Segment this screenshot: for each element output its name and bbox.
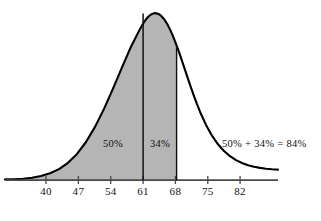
region-label-34-percent: 34% <box>150 138 170 149</box>
sum-annotation-label: 50% + 34% = 84% <box>222 138 307 149</box>
x-axis-label-61: 61 <box>137 186 149 197</box>
shaded-area-under-curve <box>5 13 177 180</box>
x-axis-label-54: 54 <box>105 186 117 197</box>
x-axis-label-75: 75 <box>202 186 214 197</box>
x-axis-label-47: 47 <box>73 186 85 197</box>
region-label-50-percent: 50% <box>103 138 123 149</box>
x-axis-label-82: 82 <box>234 186 246 197</box>
normal-distribution-chart: 40 47 54 61 68 75 82 50% 34% 50% + 34% =… <box>0 0 321 221</box>
x-axis-label-40: 40 <box>40 186 52 197</box>
x-axis-label-68: 68 <box>170 186 182 197</box>
